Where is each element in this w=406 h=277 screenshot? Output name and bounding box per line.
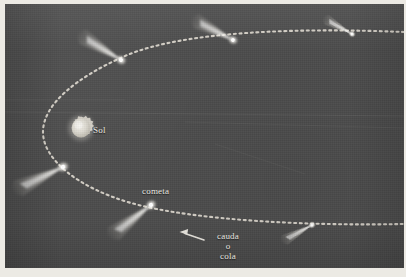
sun-label: Sol bbox=[93, 125, 106, 135]
tail-label-line-1: cauda bbox=[208, 231, 248, 241]
sun bbox=[68, 115, 94, 140]
diagram-plate: Sol cometa cauda o cola bbox=[5, 4, 404, 268]
tail-label: cauda o cola bbox=[208, 231, 248, 261]
comet-labeled bbox=[103, 195, 161, 245]
comet-left-edge bbox=[8, 157, 73, 200]
comet-label: cometa bbox=[142, 186, 169, 196]
comet-upper-left bbox=[73, 26, 130, 70]
comet-orbit-diagram bbox=[5, 4, 404, 268]
figure-page: Sol cometa cauda o cola bbox=[0, 0, 406, 277]
tail-pointer-arrow bbox=[180, 229, 205, 240]
comet-upper-mid bbox=[187, 11, 241, 49]
tail-label-line-2: o bbox=[208, 241, 248, 251]
comet-upper-right bbox=[320, 13, 357, 41]
tail-label-line-3: cola bbox=[208, 251, 248, 261]
